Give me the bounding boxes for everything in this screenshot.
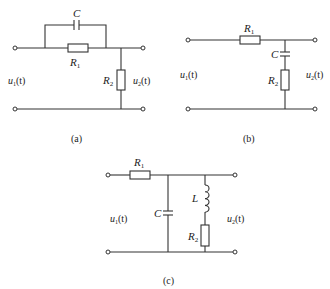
terminal-out-bottom-a [141,107,145,111]
capacitor-c-b [280,52,290,56]
label-c-b: C [271,48,279,60]
label-u1-b: u1(t) [180,69,197,81]
terminal-in-top-c [106,173,110,177]
label-r2-b: R2 [267,74,279,88]
label-r1-c: R1 [133,156,145,170]
resistor-r1-a [68,44,88,52]
terminal-out-bottom-c [233,250,237,254]
circuit-figure: C R1 R2 u1(t) u2(t) (a) R1 C R2 u1(t) u2… [0,0,330,289]
resistor-r2-c [201,225,209,246]
terminal-in-top-b [186,38,190,42]
panel-b: R1 C R2 u1(t) u2(t) (b) [180,22,323,145]
label-r2-a: R2 [102,74,114,88]
panel-a: C R1 R2 u1(t) u2(t) (a) [8,7,150,145]
caption-a: (a) [71,133,82,145]
resistor-r1-b [240,36,260,44]
terminal-in-bottom-b [186,107,190,111]
label-c-a: C [73,7,81,19]
terminal-out-top-a [141,46,145,50]
label-u2-a: u2(t) [133,75,150,87]
label-c-c: C [154,207,162,219]
label-l-c: L [191,192,198,204]
terminal-in-bottom-a [13,107,17,111]
inductor-l-c [205,185,209,212]
caption-c: (c) [163,275,174,287]
label-r2-c: R2 [187,230,199,244]
label-u2-b: u2(t) [306,69,323,81]
label-u1-c: u1(t) [110,213,127,225]
resistor-r2-a [117,70,125,90]
terminal-in-bottom-c [106,250,110,254]
resistor-r2-b [281,70,289,90]
terminal-out-top-c [233,173,237,177]
label-u1-a: u1(t) [8,75,25,87]
caption-b: (b) [243,133,255,145]
label-r1-a: R1 [69,56,81,70]
label-u2-c: u2(t) [227,213,244,225]
capacitor-c-a [74,20,79,30]
terminal-in-top-a [13,46,17,50]
panel-c: R1 C L R2 u1(t) u2(t) (c) [106,156,244,287]
terminal-out-bottom-b [313,107,317,111]
terminal-out-top-b [313,38,317,42]
capacitor-c-c [163,211,173,215]
resistor-r1-c [130,171,150,179]
label-r1-b: R1 [243,22,255,36]
